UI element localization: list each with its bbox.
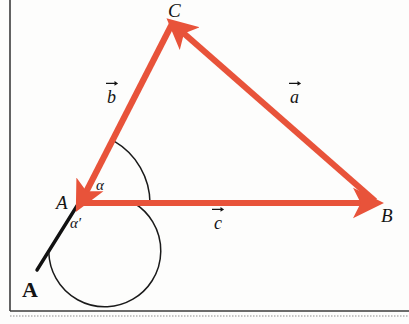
vertex-label-a: A (56, 193, 68, 212)
angle-label-alpha-prime: α′ (70, 216, 81, 231)
figure-frame (10, 0, 409, 316)
vector-accent-arrow-a (288, 79, 301, 86)
vector-label-c: c (214, 214, 222, 232)
vector-label-c-text: c (214, 213, 222, 233)
vector-accent-arrow-b (105, 79, 118, 86)
vector-triangle-figure: A B C b c a α α′ (0, 0, 409, 324)
vertex-label-c: C (168, 1, 181, 20)
vector-label-b-text: b (107, 87, 116, 107)
angle-arc-alpha (115, 141, 151, 203)
vector-label-a-text: a (290, 87, 299, 107)
angle-arc-alpha-prime (49, 203, 161, 307)
vector-b-arrow (84, 24, 172, 196)
vector-a-arrow (180, 30, 375, 201)
figure-canvas (0, 0, 409, 324)
angle-label-alpha: α (96, 178, 104, 193)
vector-label-b: b (107, 88, 116, 106)
vertex-label-b: B (381, 206, 393, 225)
vector-accent-arrow-c (212, 205, 225, 212)
figure-caption: A (22, 279, 38, 301)
vector-label-a: a (290, 88, 299, 106)
